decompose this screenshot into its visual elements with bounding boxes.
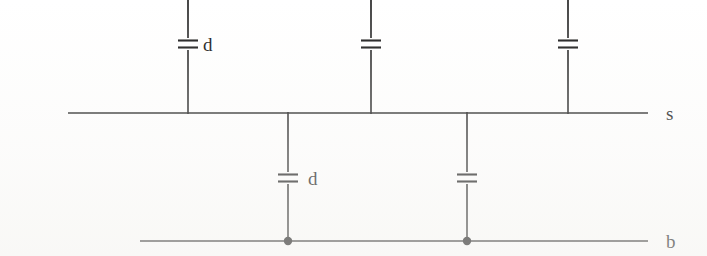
junction-dot-right [463,237,471,245]
upper-branch-1: d [178,0,213,114]
capacitor-label-d-lower: d [308,168,318,189]
capacitor-symbol [278,175,298,182]
b-bus: b [140,231,676,252]
capacitor-label-d-upper: d [203,34,213,55]
upper-branch-2 [361,0,381,114]
circuit-schematic: d s [0,0,707,256]
s-bus-label: s [666,103,673,124]
lower-branch-2 [457,112,477,242]
junction-dot-left [284,237,292,245]
capacitor-symbol [178,41,198,48]
b-bus-label: b [666,231,676,252]
schematic-canvas: d s [0,0,707,256]
upper-branch-3 [558,0,578,114]
capacitor-symbol [457,175,477,182]
lower-branch-1: d [278,112,318,242]
capacitor-symbol [558,41,578,48]
capacitor-symbol [361,41,381,48]
